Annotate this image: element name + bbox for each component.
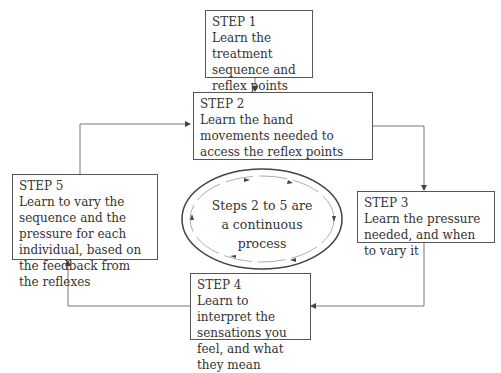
step-4-title: STEP 4 <box>197 277 304 293</box>
step-2-text: Learn the hand movements needed to acces… <box>200 112 366 160</box>
step-1-text: Learn the treatment sequence and reflex … <box>212 30 306 94</box>
step-3-text: Learn the pressure needed, and when to v… <box>364 211 488 259</box>
step-2-box: STEP 2 Learn the hand movements needed t… <box>193 92 373 160</box>
step-3-box: STEP 3 Learn the pressure needed, and wh… <box>357 191 495 243</box>
step-1-box: STEP 1 Learn the treatment sequence and … <box>205 10 313 78</box>
step-4-box: STEP 4 Learn to interpret the sensations… <box>190 273 311 340</box>
step-1-title: STEP 1 <box>212 14 306 30</box>
step-5-box: STEP 5 Learn to vary the sequence and th… <box>12 174 158 260</box>
step-4-text: Learn to interpret the sensations you fe… <box>197 293 304 373</box>
step-2-title: STEP 2 <box>200 96 366 112</box>
cycle-label: Steps 2 to 5 are a continuous process <box>208 196 316 253</box>
step-5-text: Learn to vary the sequence and the press… <box>19 194 151 290</box>
step-5-title: STEP 5 <box>19 178 151 194</box>
step-3-title: STEP 3 <box>364 195 488 211</box>
